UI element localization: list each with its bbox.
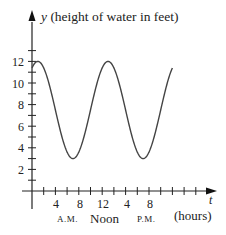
- y-tick-label-4: 4: [4, 141, 24, 156]
- pm-label: P.M.: [137, 215, 156, 224]
- y-tick-label-10: 10: [4, 77, 24, 92]
- noon-label: Noon: [90, 212, 119, 225]
- x-tick-label-4pm: 4: [117, 197, 137, 212]
- y-axis-label: y (height of water in feet): [41, 10, 179, 24]
- y-tick-label-8: 8: [4, 98, 24, 113]
- y-axis-var: y: [41, 9, 47, 24]
- y-axis-arrow-icon: [29, 10, 36, 21]
- x-axis-var: t: [209, 194, 212, 206]
- x-tick-label-8pm: 8: [140, 197, 160, 212]
- y-axis-desc: (height of water in feet): [50, 9, 178, 24]
- y-tick-label-2: 2: [4, 163, 24, 178]
- am-label: A.M.: [57, 215, 78, 224]
- water-height-curve: [32, 61, 172, 158]
- x-axis-desc: (hours): [174, 209, 212, 222]
- y-tick-label-6: 6: [4, 120, 24, 135]
- x-tick-label-4am: 4: [46, 197, 66, 212]
- x-tick-label-12: 12: [93, 197, 113, 212]
- x-tick-label-8am: 8: [70, 197, 90, 212]
- y-tick-label-12: 12: [4, 55, 24, 70]
- chart-canvas: [0, 0, 226, 235]
